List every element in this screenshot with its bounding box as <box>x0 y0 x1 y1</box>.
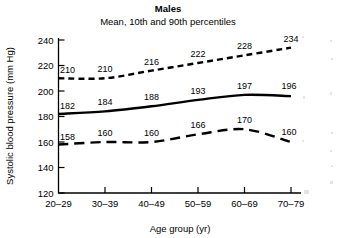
data-label: 222 <box>190 49 205 59</box>
scan-artifact <box>331 132 333 134</box>
y-tick-label: 220 <box>38 60 54 71</box>
scan-artifact <box>330 150 332 152</box>
y-tick-label: 120 <box>38 188 54 199</box>
data-label: 170 <box>237 115 252 125</box>
x-tick-label: 70–79 <box>278 198 304 209</box>
data-label: 160 <box>144 128 159 138</box>
x-axis-label: Age group (yr) <box>150 223 211 234</box>
y-tick-label: 160 <box>38 137 54 148</box>
y-tick-label: 140 <box>38 162 54 173</box>
data-label: 166 <box>190 120 205 130</box>
data-label: 196 <box>281 81 296 91</box>
x-tick-label: 40–49 <box>138 198 164 209</box>
data-label: 158 <box>60 132 75 142</box>
scan-artifact <box>330 92 332 95</box>
scan-artifact <box>302 140 304 142</box>
x-tick-label: 30–39 <box>92 198 118 209</box>
data-label: 228 <box>237 41 252 51</box>
data-label: 210 <box>97 64 112 74</box>
y-tick-label: 200 <box>38 86 54 97</box>
data-label: 193 <box>190 86 205 96</box>
scan-artifact <box>331 58 333 60</box>
scan-artifact <box>331 165 333 167</box>
y-axis-label: Systolic blood pressure (mm Hg) <box>4 47 15 185</box>
scan-artifact <box>330 181 333 184</box>
data-label: 188 <box>144 92 159 102</box>
scan-artifact <box>330 40 332 42</box>
data-label: 184 <box>97 97 112 107</box>
data-label: 160 <box>97 128 112 138</box>
chart-svg: Males Mean, 10th and 90th percentiles Sy… <box>0 0 337 238</box>
x-tick-label: 20–29 <box>45 198 71 209</box>
data-label: 160 <box>281 127 296 137</box>
y-tick-label: 240 <box>38 35 54 46</box>
data-label: 197 <box>237 81 252 91</box>
chart-subtitle: Mean, 10th and 90th percentiles <box>100 16 236 27</box>
y-tick-label: 180 <box>38 111 54 122</box>
data-label: 182 <box>60 101 75 111</box>
scan-artifact <box>303 96 305 99</box>
scan-artifact <box>302 36 304 38</box>
scan-artifact <box>304 190 309 194</box>
chart-figure: Males Mean, 10th and 90th percentiles Sy… <box>0 0 337 238</box>
data-label: 210 <box>60 65 75 75</box>
chart-title: Males <box>155 3 181 14</box>
data-label: 234 <box>283 34 298 44</box>
x-tick-label: 50–59 <box>185 198 211 209</box>
x-tick-label: 60–69 <box>231 198 257 209</box>
data-label: 216 <box>144 57 159 67</box>
